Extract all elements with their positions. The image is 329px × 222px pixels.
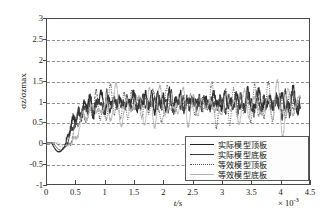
legend-item[interactable]: 等效模型底板 — [189, 169, 305, 179]
legend-item[interactable]: 实际模型底板 — [189, 149, 305, 159]
x-tick-mark — [310, 180, 311, 185]
x-tick-mark — [75, 180, 76, 185]
legend: 实际模型顶板实际模型底板等效模型顶板等效模型底板 — [185, 136, 309, 181]
x-axis-multiplier-exponent: -3 — [293, 196, 298, 203]
legend-line-swatch — [189, 170, 215, 178]
legend-line-swatch — [189, 140, 215, 148]
y-tick-label: 0 — [1, 138, 43, 148]
x-tick-mark — [134, 180, 135, 185]
x-tick-mark — [105, 180, 106, 185]
legend-line-swatch — [189, 150, 215, 158]
legend-item[interactable]: 等效模型顶板 — [189, 159, 305, 169]
y-axis-label-text: σz/σzmax — [18, 73, 28, 109]
x-axis-multiplier: × 10-3 — [278, 196, 299, 208]
x-axis-label-text: t/s — [174, 198, 183, 208]
x-tick-mark — [46, 180, 47, 185]
x-axis-multiplier-base: × 10 — [278, 198, 293, 208]
y-tick-label: 3 — [1, 13, 43, 23]
legend-item[interactable]: 实际模型顶板 — [189, 139, 305, 149]
chart-figure: 32.521.510.50-0.5-1 σz/σzmax 00.511.522.… — [0, 0, 329, 222]
legend-item-label: 等效模型底板 — [218, 169, 267, 180]
y-tick-label: -0.5 — [1, 159, 43, 169]
legend-line-swatch — [189, 160, 215, 168]
y-axis-label: σz/σzmax — [18, 61, 28, 121]
y-tick-label: 2.5 — [1, 34, 43, 44]
x-tick-mark — [163, 180, 164, 185]
x-axis-label: t/s — [46, 198, 310, 208]
